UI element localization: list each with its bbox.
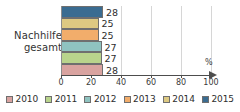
legend-swatch-2012 [84, 96, 91, 103]
bar-value-label-2014: 25 [99, 18, 114, 29]
legend-label-2013: 2013 [133, 94, 156, 104]
legend-label-2015: 2015 [211, 94, 234, 104]
legend-item-2013[interactable]: 2013 [124, 94, 156, 104]
x-tick-label-60: 60 [146, 78, 156, 87]
legend-item-2015[interactable]: 2015 [202, 94, 234, 104]
legend-item-2012[interactable]: 2012 [84, 94, 116, 104]
legend-swatch-2011 [45, 96, 52, 103]
bar-2014[interactable] [61, 18, 99, 30]
legend-item-2014[interactable]: 2014 [163, 94, 195, 104]
y-axis-line [61, 6, 62, 76]
legend-swatch-2010 [6, 96, 13, 103]
x-tick-label-20: 20 [86, 78, 96, 87]
bar-2010[interactable] [61, 64, 103, 76]
category-axis-label: Nachhilfegesamt [0, 30, 62, 53]
category-label-line1: Nachhilfe [14, 30, 62, 41]
legend-label-2010: 2010 [16, 94, 39, 104]
legend-label-2014: 2014 [172, 94, 195, 104]
bar-value-label-2011: 27 [102, 53, 117, 64]
bar-row-2013[interactable]: 25 [61, 29, 213, 41]
bar-value-label-2015: 28 [103, 6, 118, 17]
x-tick-label-40: 40 [116, 78, 126, 87]
bar-row-2012[interactable]: 27 [61, 41, 213, 53]
bar-group: 282525272728 [61, 6, 213, 76]
bar-chart-widget: Nachhilfegesamt 282525272728 02040608010… [0, 0, 240, 112]
category-label-line2: gesamt [24, 42, 62, 53]
bar-value-label-2013: 25 [99, 29, 114, 40]
bar-value-label-2012: 27 [102, 41, 117, 52]
legend-swatch-2015 [202, 96, 209, 103]
percent-unit-label: % [205, 58, 213, 67]
chart-legend: 201020112012201320142015 [0, 92, 240, 106]
legend-swatch-2013 [124, 96, 131, 103]
bar-row-2010[interactable]: 28 [61, 64, 213, 76]
x-tick-label-0: 0 [58, 78, 63, 87]
bar-row-2015[interactable]: 28 [61, 6, 213, 18]
bar-row-2014[interactable]: 25 [61, 18, 213, 30]
bar-2011[interactable] [61, 52, 102, 64]
legend-label-2012: 2012 [94, 94, 117, 104]
legend-swatch-2014 [163, 96, 170, 103]
legend-item-2011[interactable]: 2011 [45, 94, 77, 104]
x-tick-label-100: 100 [203, 78, 218, 87]
x-axis-line [61, 75, 211, 76]
x-tick-label-80: 80 [176, 78, 186, 87]
bar-2015[interactable] [61, 6, 103, 18]
legend-item-2010[interactable]: 2010 [6, 94, 38, 104]
bar-2012[interactable] [61, 41, 102, 53]
bar-row-2011[interactable]: 27 [61, 52, 213, 64]
plot-area: 282525272728 [61, 6, 213, 76]
plot-wrapper: Nachhilfegesamt 282525272728 02040608010… [0, 0, 240, 88]
bar-value-label-2010: 28 [103, 64, 118, 75]
bar-2013[interactable] [61, 29, 99, 41]
legend-label-2011: 2011 [55, 94, 78, 104]
